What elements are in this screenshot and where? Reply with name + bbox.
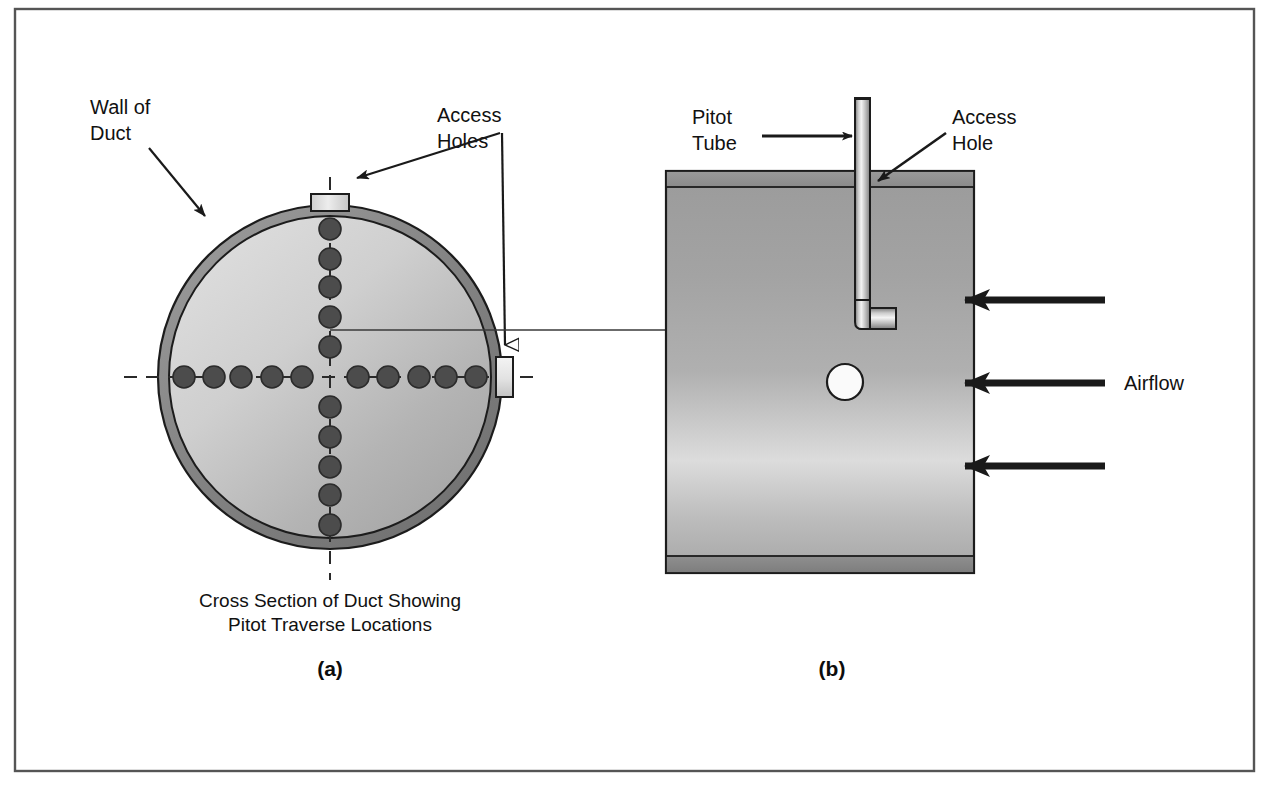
traverse-point — [319, 456, 341, 478]
access-holes-label-line1: Access — [437, 104, 501, 126]
traverse-point — [347, 366, 369, 388]
access-hole-top — [311, 194, 349, 211]
duct-body — [666, 171, 974, 573]
duct-bottom-wall-band — [666, 556, 974, 573]
panel-a-letter: (a) — [317, 657, 343, 680]
traverse-point — [319, 248, 341, 270]
access-hole-right — [496, 357, 513, 397]
traverse-point — [319, 306, 341, 328]
traverse-point — [319, 218, 341, 240]
traverse-point — [291, 366, 313, 388]
access-holes-label-line2: Holes — [437, 130, 488, 152]
duct-pitot-traverse-diagram: Wall of Duct Access Holes Cross Section … — [0, 0, 1273, 785]
traverse-point — [465, 366, 487, 388]
airflow-label: Airflow — [1124, 372, 1185, 394]
panel-a-caption-line1: Cross Section of Duct Showing — [199, 590, 461, 611]
panel-a-caption-line2: Pitot Traverse Locations — [228, 614, 432, 635]
wall-of-duct-label-line2: Duct — [90, 122, 132, 144]
traverse-point — [319, 276, 341, 298]
traverse-point — [261, 366, 283, 388]
traverse-point — [319, 336, 341, 358]
traverse-point — [319, 396, 341, 418]
pitot-tube-label-line1: Pitot — [692, 106, 732, 128]
duct-top-wall-band-left — [666, 171, 856, 187]
traverse-point — [230, 366, 252, 388]
traverse-point — [203, 366, 225, 388]
wall-port-circle — [827, 364, 863, 400]
traverse-point — [408, 366, 430, 388]
wall-of-duct-label-line1: Wall of — [90, 96, 151, 118]
figure-root: Wall of Duct Access Holes Cross Section … — [0, 0, 1273, 785]
traverse-point — [377, 366, 399, 388]
pitot-tube-stem — [855, 98, 870, 314]
traverse-point — [319, 484, 341, 506]
access-hole-label-line2: Hole — [952, 132, 993, 154]
pitot-tube-elbow — [855, 300, 870, 329]
traverse-point — [435, 366, 457, 388]
pitot-tube-label-line2: Tube — [692, 132, 737, 154]
panel-b-letter: (b) — [819, 657, 846, 680]
traverse-point — [173, 366, 195, 388]
traverse-point — [319, 514, 341, 536]
duct-top-wall-band-right — [869, 171, 974, 187]
access-hole-label-line1: Access — [952, 106, 1016, 128]
traverse-point — [319, 426, 341, 448]
